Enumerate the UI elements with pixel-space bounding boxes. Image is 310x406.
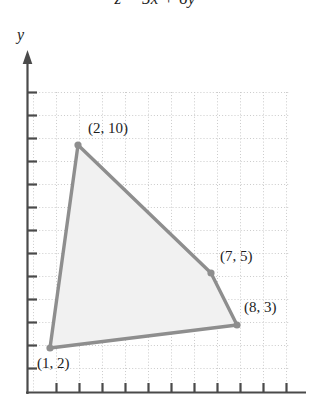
vertex-dot-7-5 (207, 269, 214, 276)
feasible-region-polygon (50, 145, 237, 348)
vertex-dot-2-10 (74, 141, 81, 148)
y-axis (23, 50, 33, 394)
y-axis-arrowhead (23, 50, 33, 64)
vertex-dot-1-2 (46, 344, 53, 351)
vertex-label-1-2: (1, 2) (37, 356, 70, 371)
vertex-dot-8-3 (233, 321, 240, 328)
vertex-label-7-5: (7, 5) (220, 249, 253, 264)
vertex-label-2-10: (2, 10) (88, 121, 128, 136)
plot-area (0, 0, 310, 406)
vertex-label-8-3: (8, 3) (244, 300, 277, 315)
figure-canvas: z = 5x + 6y y (0, 0, 310, 406)
